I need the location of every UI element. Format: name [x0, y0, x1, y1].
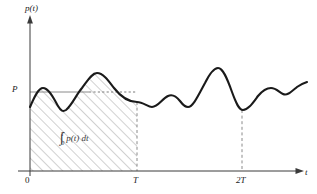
integral-lower-limit: 0: [61, 140, 64, 146]
x-tick-label-T: T: [133, 176, 138, 185]
origin-label: 0: [25, 176, 30, 185]
x-axis-label: t: [305, 168, 308, 177]
integral-integrand: p(t) dt: [66, 133, 88, 143]
power-curve: [30, 68, 307, 111]
plot-figure: p(t) t P 0 T 2T ∫T0p(t) dt: [0, 0, 317, 194]
x-tick-label-2T: 2T: [236, 176, 246, 185]
integral-annotation: ∫T0p(t) dt: [60, 130, 92, 145]
y-axis-label: p(t): [25, 4, 38, 13]
integral-upper-limit: T: [61, 131, 64, 137]
shaded-integral-region: [29, 60, 139, 172]
plot-canvas: [0, 0, 317, 194]
y-tick-label-P: P: [12, 85, 18, 94]
